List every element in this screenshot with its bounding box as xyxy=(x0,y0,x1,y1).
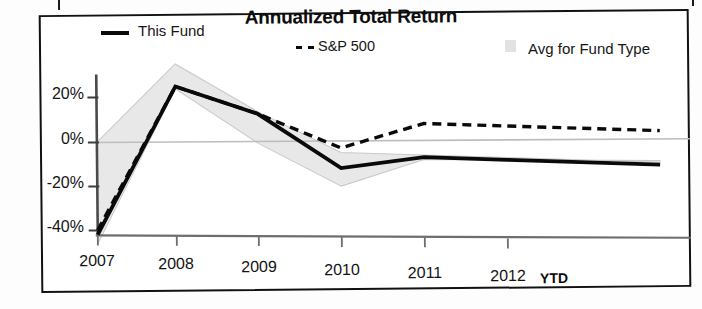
x-tick-label-2009: 2009 xyxy=(229,258,289,277)
x-tick-label-2010: 2010 xyxy=(312,261,372,280)
x-tick-label-2007: 2007 xyxy=(67,252,127,271)
x-tick-label-2008: 2008 xyxy=(146,255,206,274)
y-tick-label-neg40: -40% xyxy=(22,218,84,236)
x-axis-line xyxy=(96,230,691,244)
x-axis-ytd-suffix-label: YTD xyxy=(540,270,568,286)
y-tick-label-0: 0% xyxy=(22,130,84,148)
chart-content: Annualized Total Return This Fund S&P 50… xyxy=(0,0,702,309)
chart-page: Annualized Total Return This Fund S&P 50… xyxy=(0,0,702,309)
y-tick-label-20: 20% xyxy=(22,85,84,103)
zero-baseline-gridline xyxy=(97,137,690,145)
y-axis-line xyxy=(96,74,98,235)
y-tick-label-neg20: -20% xyxy=(22,174,84,192)
x-tick-label-2011: 2011 xyxy=(395,264,455,283)
x-tick-label-2012: 2012 xyxy=(478,267,538,286)
